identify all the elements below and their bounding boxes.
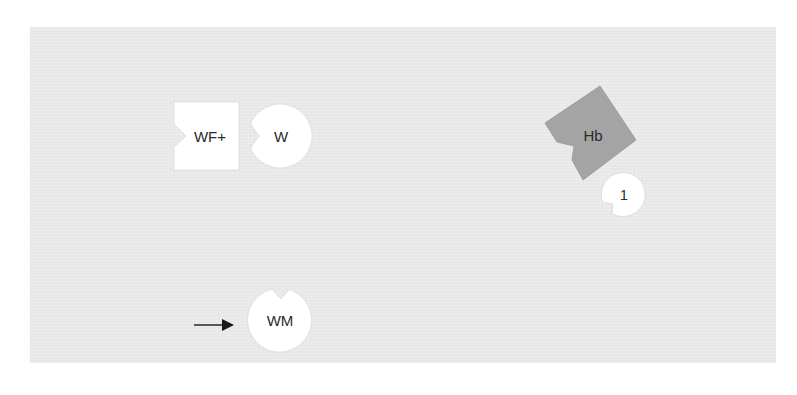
node-w: W — [251, 104, 313, 168]
arrowhead-icon — [222, 319, 234, 331]
node-one: 1 — [601, 173, 645, 217]
node-wfplus: WF+ — [174, 102, 239, 170]
arrow-to-wm — [194, 319, 234, 331]
node-label-hb: Hb — [583, 127, 602, 144]
node-hb: Hb — [545, 86, 636, 180]
node-label-w: W — [274, 128, 289, 145]
node-label-one: 1 — [620, 187, 628, 203]
node-label-wm: WM — [267, 312, 294, 329]
diagram-canvas: WF+ W Hb 1 WM — [0, 0, 797, 395]
node-label-wfplus: WF+ — [194, 128, 226, 145]
node-wm: WM — [248, 289, 312, 352]
